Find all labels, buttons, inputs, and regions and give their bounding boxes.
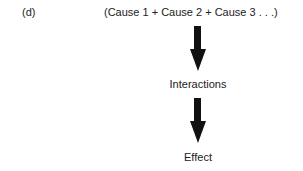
effect-node: Effect xyxy=(0,151,303,163)
down-arrow-icon xyxy=(189,98,207,144)
panel-label: (d) xyxy=(22,6,35,18)
down-arrow-icon xyxy=(189,26,207,72)
interactions-node: Interactions xyxy=(0,78,303,90)
causes-node: (Cause 1 + Cause 2 + Cause 3 . . .) xyxy=(104,6,278,18)
